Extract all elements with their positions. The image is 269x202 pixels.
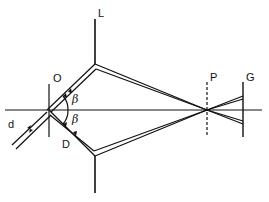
label-D: D [62,138,70,150]
beam-to-G-lower-b [207,110,243,121]
label-L: L [98,7,104,19]
label-P: P [210,71,217,83]
upper-arm-a [47,64,95,110]
lower-to-P-a [95,110,207,156]
angle-arc-lower [63,110,68,124]
incoming-beam-inner [16,115,51,149]
beam-to-G-upper-b [207,99,243,110]
label-O: O [53,72,62,84]
label-G: G [246,71,255,83]
upper-to-P-b [96,69,207,110]
diagram-canvas: L O P G D d β β [0,0,269,202]
label-beta-upper: β [71,93,78,106]
upper-to-P-a [95,64,207,110]
lower-to-P-b [94,110,207,151]
label-d: d [8,118,14,130]
label-beta-lower: β [71,113,78,126]
